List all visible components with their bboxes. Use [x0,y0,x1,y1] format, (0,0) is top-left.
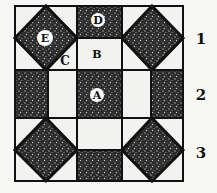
row-label-2: 2 [196,86,206,104]
quilt-block-diagram: E D B C A 1 2 3 [0,0,217,193]
patch-bottom-dark [77,150,122,181]
row-label-3: 3 [196,144,206,162]
svg-text:A: A [92,89,102,102]
patch-right-dark [151,70,183,118]
row-label-1: 1 [196,30,206,48]
patch-right-light [122,70,151,118]
label-c: C [60,54,70,68]
label-d: D [91,13,105,27]
label-e: E [37,30,53,46]
label-a: A [90,88,104,102]
svg-text:D: D [93,14,103,27]
svg-text:E: E [41,32,49,45]
patch-left-dark [15,70,48,118]
patch-bottom-light [77,118,122,150]
label-b: B [92,48,101,61]
patch-left-light [48,70,77,118]
